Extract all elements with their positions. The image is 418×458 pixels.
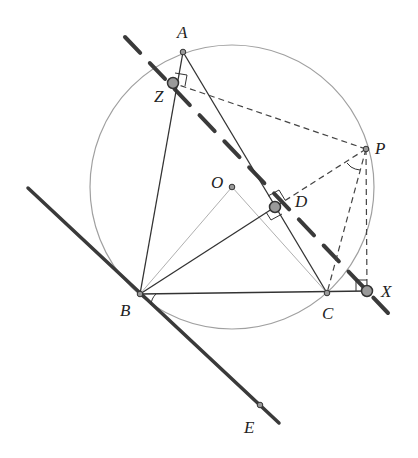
label-X: X xyxy=(380,282,392,301)
point-X xyxy=(362,286,373,297)
segment-OB xyxy=(140,187,232,294)
label-O: O xyxy=(211,173,223,192)
point-P xyxy=(363,146,369,152)
point-B xyxy=(137,291,143,297)
label-C: C xyxy=(322,304,334,323)
side-AC xyxy=(183,52,327,293)
side-BC xyxy=(140,291,367,294)
label-A: A xyxy=(176,23,188,42)
geometry-diagram: A B C O P Z D X E xyxy=(0,0,418,458)
angle-arc-P xyxy=(347,163,360,170)
label-Z: Z xyxy=(154,87,164,106)
point-C xyxy=(324,290,330,296)
tangent-line-BE xyxy=(28,188,279,423)
point-A xyxy=(180,49,186,55)
label-D: D xyxy=(294,192,308,211)
segment-BD xyxy=(140,207,275,294)
point-D xyxy=(270,202,281,213)
label-E: E xyxy=(243,418,255,437)
point-E xyxy=(257,402,263,408)
label-P: P xyxy=(374,139,385,158)
point-O xyxy=(229,184,235,190)
label-B: B xyxy=(120,301,131,320)
dashed-PX xyxy=(366,149,367,291)
point-Z xyxy=(168,78,179,89)
